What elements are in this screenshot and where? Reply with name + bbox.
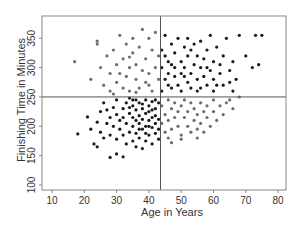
data-point [218, 72, 221, 75]
data-point [164, 54, 167, 57]
data-point [138, 114, 141, 117]
data-point [196, 113, 199, 116]
x-tick-label: 10 [46, 195, 58, 206]
y-axis-label: Finishing Time in Minutes [15, 37, 27, 162]
data-point [125, 101, 128, 104]
data-point [118, 128, 121, 131]
data-point [89, 128, 92, 131]
data-point [141, 69, 144, 72]
data-point [115, 152, 118, 155]
x-axis-label: Age in Years [141, 206, 203, 218]
data-point [151, 116, 154, 119]
data-point [196, 54, 199, 57]
data-point [170, 63, 173, 66]
data-point [180, 104, 183, 107]
data-point [131, 51, 134, 54]
data-point [164, 78, 167, 81]
data-point [180, 90, 183, 93]
data-point [96, 40, 99, 43]
data-point [122, 116, 125, 119]
data-point [122, 134, 125, 137]
data-point [173, 75, 176, 78]
data-point [260, 34, 263, 37]
data-point [131, 116, 134, 119]
data-point [128, 131, 131, 134]
data-point [218, 104, 221, 107]
data-point [122, 57, 125, 60]
data-point [202, 57, 205, 60]
data-point [228, 98, 231, 101]
data-point [102, 101, 105, 104]
data-point [186, 81, 189, 84]
data-point [105, 54, 108, 57]
data-point [109, 72, 112, 75]
data-point [222, 113, 225, 116]
data-point [235, 78, 238, 81]
data-point [170, 107, 173, 110]
data-point [144, 81, 147, 84]
data-point [96, 121, 99, 124]
data-point [128, 55, 131, 58]
data-point [115, 98, 118, 101]
data-point [173, 51, 176, 54]
data-point [115, 81, 118, 84]
data-point [173, 66, 176, 69]
data-point [205, 66, 208, 69]
data-point [147, 104, 150, 107]
data-point [144, 139, 147, 142]
data-point [141, 118, 144, 121]
data-point [212, 90, 215, 93]
data-point [86, 115, 89, 118]
data-point [115, 63, 118, 66]
data-point [154, 122, 157, 125]
data-point [196, 128, 199, 131]
data-point [122, 107, 125, 110]
data-point [151, 126, 154, 129]
data-point [254, 34, 257, 37]
data-point [209, 125, 212, 128]
data-point [209, 69, 212, 72]
data-point [202, 131, 205, 134]
chart-canvas: 1020304050607080 100150200250300350 Age … [0, 0, 298, 225]
data-point [167, 136, 170, 139]
data-point [205, 116, 208, 119]
data-point [251, 66, 254, 69]
data-point [128, 112, 131, 115]
data-point [189, 101, 192, 104]
data-point [196, 90, 199, 93]
data-point [196, 78, 199, 81]
data-point [209, 34, 212, 37]
data-point [199, 122, 202, 125]
data-point [131, 98, 134, 101]
data-point [164, 113, 167, 116]
data-point [125, 142, 128, 145]
data-point [205, 48, 208, 51]
data-point [131, 37, 134, 40]
data-point [109, 134, 112, 137]
data-point [125, 43, 128, 46]
x-tick-label: 80 [273, 195, 285, 206]
data-point [189, 87, 192, 90]
data-point [183, 98, 186, 101]
data-point [199, 40, 202, 43]
data-point [109, 156, 112, 159]
data-point [212, 60, 215, 63]
data-point [180, 134, 183, 137]
data-point [122, 155, 125, 158]
data-point [144, 125, 147, 128]
data-point [157, 118, 160, 121]
data-point [228, 81, 231, 84]
data-point [92, 142, 95, 145]
data-point [170, 43, 173, 46]
data-point [134, 119, 137, 122]
data-point [176, 84, 179, 87]
y-tick-label: 150 [26, 147, 37, 164]
data-point [176, 37, 179, 40]
x-tick-label: 40 [143, 195, 155, 206]
data-point [157, 78, 160, 81]
data-point [141, 107, 144, 110]
data-point [138, 101, 141, 104]
data-point [138, 136, 141, 139]
data-point [202, 110, 205, 113]
data-point [205, 104, 208, 107]
